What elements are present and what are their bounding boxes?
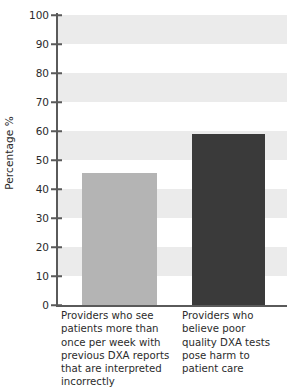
y-tick-mark-70 — [51, 101, 62, 103]
x-axis-category-labels: Providers who see patients more than onc… — [57, 309, 287, 391]
y-tick-mark-0 — [51, 304, 62, 306]
background-band-4 — [57, 15, 287, 44]
y-tick-label-50: 50 — [36, 155, 49, 166]
y-tick-label-80: 80 — [36, 68, 49, 79]
y-tick-mark-30 — [51, 217, 62, 219]
y-tick-mark-60 — [51, 130, 62, 132]
y-tick-mark-50 — [51, 159, 62, 161]
y-tick-label-20: 20 — [36, 242, 49, 253]
y-axis-title-text: Percentage % — [3, 116, 15, 190]
y-tick-mark-100 — [51, 14, 62, 16]
y-tick-mark-20 — [51, 246, 62, 248]
bar-1 — [192, 134, 265, 305]
y-tick-mark-80 — [51, 72, 62, 74]
y-tick-mark-10 — [51, 275, 62, 277]
x-axis-line — [56, 305, 287, 307]
bar-chart: Percentage % 0102030405060708090100 Prov… — [0, 0, 287, 391]
y-tick-label-30: 30 — [36, 213, 49, 224]
y-axis-tick-labels: 0102030405060708090100 — [18, 0, 52, 320]
bar-0 — [82, 173, 157, 305]
y-tick-label-90: 90 — [36, 39, 49, 50]
y-tick-mark-40 — [51, 188, 62, 190]
y-tick-label-100: 100 — [29, 10, 49, 21]
background-band-3 — [57, 73, 287, 102]
category-label-0: Providers who see patients more than onc… — [61, 309, 177, 389]
y-tick-label-40: 40 — [36, 184, 49, 195]
y-tick-label-70: 70 — [36, 97, 49, 108]
plot-area — [57, 15, 287, 305]
y-tick-mark-90 — [51, 43, 62, 45]
y-tick-label-0: 0 — [42, 300, 49, 311]
category-label-1: Providers who believe poor quality DXA t… — [182, 309, 282, 375]
y-axis-title: Percentage % — [0, 0, 18, 305]
y-tick-label-60: 60 — [36, 126, 49, 137]
y-tick-label-10: 10 — [36, 271, 49, 282]
